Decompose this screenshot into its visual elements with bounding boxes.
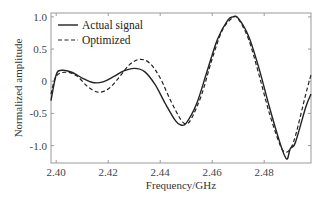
chart: 2.402.422.442.462.48 1.00.50-0.5-1.0 Act… [0,0,329,201]
x-tick-label: 2.46 [203,166,223,178]
y-tick-label: 1.0 [33,11,47,23]
y-tick-label: 0.5 [33,43,47,55]
y-tick-label: -1.0 [30,140,48,152]
legend-label-optimized: Optimized [82,34,131,47]
y-axis-label: Normalized amplitude [12,39,24,138]
legend-label-actual: Actual signal [82,19,143,32]
x-axis-label: Frequency/GHz [146,179,216,191]
legend: Actual signal Optimized [58,19,143,47]
y-tick-label: -0.5 [30,107,48,119]
x-tick-label: 2.48 [255,166,275,178]
plot-area: 2.402.422.442.462.48 1.00.50-0.5-1.0 [30,11,311,178]
x-tick-label: 2.40 [47,166,67,178]
y-axis-ticks: 1.00.50-0.5-1.0 [30,11,311,152]
y-tick-label: 0 [42,75,48,87]
x-tick-label: 2.44 [151,166,171,178]
x-tick-label: 2.42 [99,166,118,178]
